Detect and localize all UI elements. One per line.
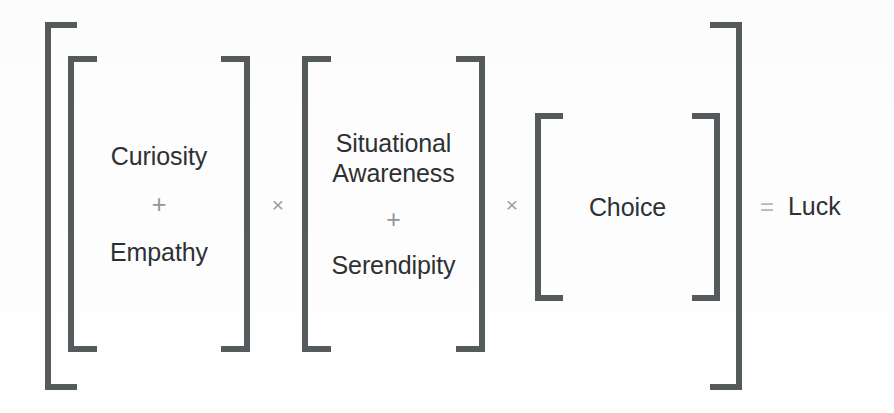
group-curiosity-empathy: Curiosity + Empathy bbox=[97, 56, 221, 352]
term-curiosity: Curiosity bbox=[111, 141, 207, 171]
bracket-arm-top bbox=[456, 56, 485, 62]
group2-bracket-close bbox=[456, 56, 485, 352]
bracket-stem bbox=[535, 113, 541, 301]
bracket-arm-top bbox=[68, 56, 97, 62]
bracket-arm-bottom bbox=[68, 346, 97, 352]
bracket-arm-bottom bbox=[692, 295, 720, 301]
bracket-arm-bottom bbox=[45, 384, 77, 390]
figure-canvas: Curiosity + Empathy × Situational Awaren… bbox=[0, 0, 894, 413]
equals-sign: = bbox=[760, 193, 774, 220]
bracket-arm-top bbox=[45, 22, 77, 28]
group2-bracket-open bbox=[302, 56, 331, 352]
bracket-arm-bottom bbox=[456, 346, 485, 352]
plus-operator-1: + bbox=[152, 189, 167, 219]
bracket-arm-bottom bbox=[710, 384, 742, 390]
result-label: Luck bbox=[788, 192, 841, 220]
term-empathy: Empathy bbox=[110, 237, 208, 267]
group3-bracket-open bbox=[535, 113, 563, 301]
group1-bracket-close bbox=[221, 56, 250, 352]
bracket-stem bbox=[736, 22, 742, 390]
result-expression: = Luck bbox=[760, 191, 841, 222]
group3-bracket-close bbox=[692, 113, 720, 301]
bracket-arm-top bbox=[710, 22, 742, 28]
term-situational-awareness: Situational Awareness bbox=[331, 128, 456, 188]
bracket-stem bbox=[244, 56, 250, 352]
bracket-stem bbox=[45, 22, 51, 390]
bracket-arm-bottom bbox=[302, 346, 331, 352]
plus-operator-2: + bbox=[386, 204, 401, 234]
multiply-operator-2: × bbox=[502, 194, 522, 215]
bracket-arm-bottom bbox=[221, 346, 250, 352]
bracket-arm-top bbox=[221, 56, 250, 62]
bracket-arm-bottom bbox=[535, 295, 563, 301]
multiply-operator-1: × bbox=[268, 194, 288, 215]
group-choice: Choice bbox=[563, 113, 692, 301]
bracket-arm-top bbox=[535, 113, 563, 119]
bracket-arm-top bbox=[302, 56, 331, 62]
bracket-stem bbox=[479, 56, 485, 352]
group1-bracket-open bbox=[68, 56, 97, 352]
bracket-stem bbox=[68, 56, 74, 352]
term-serendipity: Serendipity bbox=[332, 250, 456, 280]
bracket-arm-top bbox=[692, 113, 720, 119]
bracket-stem bbox=[302, 56, 308, 352]
term-choice: Choice bbox=[589, 192, 666, 222]
bracket-stem bbox=[714, 113, 720, 301]
group-awareness-serendipity: Situational Awareness + Serendipity bbox=[331, 56, 456, 352]
